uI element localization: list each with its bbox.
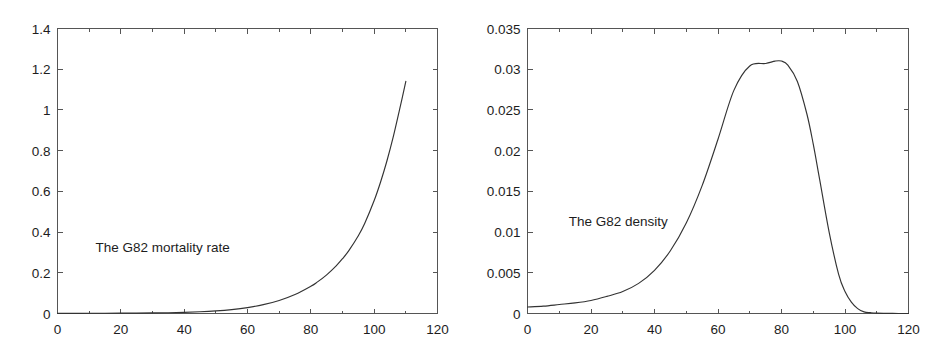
x-tick-label: 20 xyxy=(583,322,598,337)
y-tick-label: 0.035 xyxy=(487,22,521,37)
y-tick-label: 0.025 xyxy=(487,103,521,118)
y-tick-label: 0.005 xyxy=(487,266,521,281)
x-tick-label: 40 xyxy=(647,322,662,337)
density-plot: 02040608010012000.0050.010.0150.020.0250… xyxy=(466,0,931,355)
y-tick-label: 0.6 xyxy=(32,184,51,199)
x-tick-label: 0 xyxy=(524,322,532,337)
x-tick-label: 100 xyxy=(834,322,857,337)
curve-annotation-label: The G82 density xyxy=(569,214,668,229)
y-tick-label: 1 xyxy=(43,103,51,118)
x-tick-label: 0 xyxy=(54,322,62,337)
x-tick-label: 60 xyxy=(710,322,725,337)
y-tick-label: 0.4 xyxy=(32,225,51,240)
y-tick-label: 0 xyxy=(513,307,521,322)
data-curve xyxy=(528,61,909,314)
y-tick-label: 0.03 xyxy=(494,62,520,77)
y-tick-label: 0.015 xyxy=(487,184,521,199)
chart-panel-density: 02040608010012000.0050.010.0150.020.0250… xyxy=(466,0,931,355)
x-tick-label: 40 xyxy=(177,322,192,337)
y-tick-label: 0 xyxy=(43,307,51,322)
y-tick-label: 1.4 xyxy=(32,22,51,37)
chart-panel-mortality-rate: 02040608010012000.20.40.60.811.21.4The G… xyxy=(0,0,466,355)
axis-frame xyxy=(528,29,909,314)
x-tick-label: 80 xyxy=(774,322,789,337)
figure-container: 02040608010012000.20.40.60.811.21.4The G… xyxy=(0,0,931,355)
x-tick-label: 60 xyxy=(240,322,255,337)
mortality-rate-plot: 02040608010012000.20.40.60.811.21.4The G… xyxy=(0,0,466,355)
curve-annotation-label: The G82 mortality rate xyxy=(96,240,230,255)
y-tick-label: 0.8 xyxy=(32,144,51,159)
y-tick-label: 0.2 xyxy=(32,266,51,281)
x-tick-label: 80 xyxy=(303,322,318,337)
x-tick-label: 120 xyxy=(897,322,920,337)
data-curve xyxy=(58,81,406,313)
x-tick-label: 20 xyxy=(113,322,128,337)
y-tick-label: 0.01 xyxy=(494,225,520,240)
x-tick-label: 120 xyxy=(426,322,449,337)
axis-frame xyxy=(58,29,438,314)
x-tick-label: 100 xyxy=(363,322,386,337)
y-tick-label: 1.2 xyxy=(32,62,51,77)
y-tick-label: 0.02 xyxy=(494,144,520,159)
